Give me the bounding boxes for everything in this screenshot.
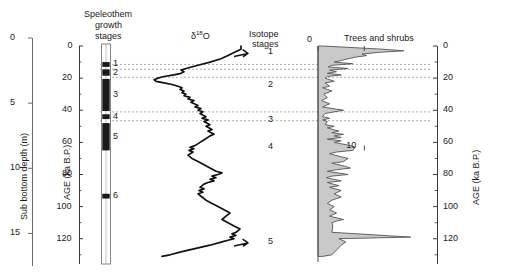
growth-band-3 bbox=[102, 79, 109, 111]
isotope-stage-arrow-5 bbox=[234, 239, 248, 246]
age-left-tick-label-100: 100 bbox=[57, 202, 72, 211]
growth-stage-number-5: 5 bbox=[113, 132, 118, 141]
growth-band-2 bbox=[102, 69, 109, 75]
correlation-lines bbox=[100, 64, 432, 120]
growth-stage-number-6: 6 bbox=[113, 191, 118, 200]
growth-stage-number-4: 4 bbox=[113, 112, 118, 121]
pollen-xtick-label-10: 10 bbox=[346, 141, 356, 150]
growth-stage-number-3: 3 bbox=[113, 90, 118, 99]
stage-arrows bbox=[234, 50, 248, 247]
growth-band-1 bbox=[102, 62, 109, 67]
plot-layer bbox=[0, 0, 506, 273]
depth-tick-label-10: 10 bbox=[10, 163, 20, 172]
isotope-stage-label-1: 1 bbox=[268, 47, 273, 56]
depth-tick-label-15: 15 bbox=[10, 228, 20, 237]
age-right-tick-label-80: 80 bbox=[443, 169, 453, 178]
age-right-tick-label-40: 40 bbox=[443, 105, 453, 114]
age-left-tick-label-120: 120 bbox=[57, 234, 72, 243]
age-right-tick-label-100: 100 bbox=[443, 202, 458, 211]
age-right-tick-label-20: 20 bbox=[443, 73, 453, 82]
isotope-stage-label-3: 3 bbox=[268, 115, 273, 124]
age-left-tick-label-80: 80 bbox=[62, 169, 72, 178]
age-left-tick-label-60: 60 bbox=[62, 137, 72, 146]
growth-stage-column bbox=[102, 44, 111, 264]
age-left-tick-label-20: 20 bbox=[62, 73, 72, 82]
isotope-stage-label-2: 2 bbox=[268, 80, 273, 89]
age-right-tick-label-120: 120 bbox=[443, 234, 458, 243]
age-left-tick-label-0: 0 bbox=[68, 41, 73, 50]
age-right-tick-label-60: 60 bbox=[443, 137, 453, 146]
isotope-stage-label-4: 4 bbox=[268, 142, 273, 151]
axis-ticks bbox=[28, 38, 437, 255]
age-left-tick-label-40: 40 bbox=[62, 105, 72, 114]
isotope-stage-label-5: 5 bbox=[268, 237, 273, 246]
paleoclimate-figure: Sub bottom depth (m) AGE (ka B.P.) Spele… bbox=[0, 0, 506, 273]
growth-band-5 bbox=[102, 123, 109, 150]
pollen-area-chart bbox=[318, 46, 411, 262]
pollen-xtick-label-0: 0 bbox=[307, 35, 312, 44]
age-right-tick-label-0: 0 bbox=[443, 41, 448, 50]
growth-stage-number-2: 2 bbox=[113, 68, 118, 77]
depth-tick-label-0: 0 bbox=[10, 33, 15, 42]
growth-band-6 bbox=[102, 194, 109, 199]
depth-tick-label-5: 5 bbox=[10, 98, 15, 107]
growth-band-4 bbox=[102, 114, 109, 119]
